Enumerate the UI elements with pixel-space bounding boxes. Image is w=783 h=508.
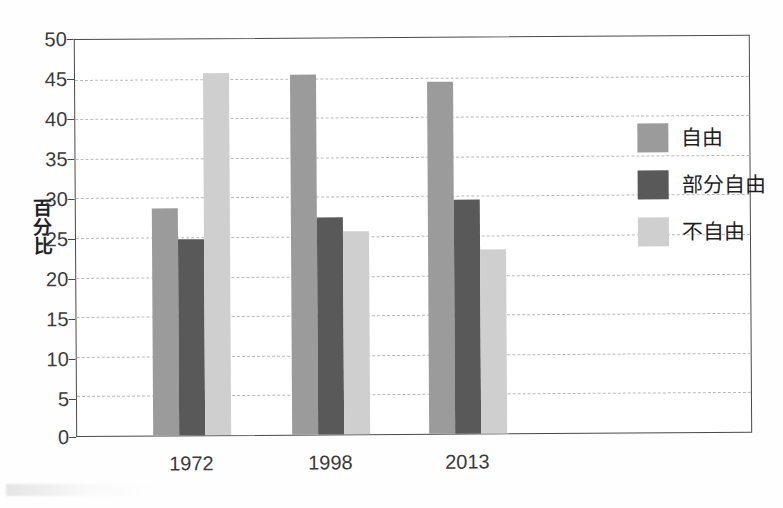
- bar-1972-not-free: [203, 73, 231, 435]
- legend-label-partly-free: 部分自由: [682, 173, 766, 197]
- y-tick-label-45: 45: [27, 69, 67, 89]
- y-tick-mark-10: [69, 359, 76, 360]
- bar-chart-figure: 百分比 50 45 40 35 30 25 20 15 10 5 0: [0, 0, 783, 508]
- legend-label-free: 自由: [681, 126, 723, 149]
- plot-area: 自由 部分自由 不自由: [74, 35, 752, 437]
- legend: 自由 部分自由 不自由: [637, 113, 783, 255]
- bar-2013-free: [427, 82, 455, 434]
- scanned-page: 百分比 50 45 40 35 30 25 20 15 10 5 0: [0, 0, 783, 508]
- y-tick-label-5: 5: [29, 389, 69, 409]
- bar-2013-not-free: [480, 250, 507, 434]
- legend-item-free: 自由: [637, 113, 783, 161]
- y-axis-ticks: 50 45 40 35 30 25 20 15 10 5 0: [0, 0, 782, 2]
- y-tick-mark-0: [69, 437, 76, 438]
- y-tick-mark-45: [67, 79, 74, 80]
- y-tick-label-0: 0: [29, 427, 69, 447]
- y-tick-label-40: 40: [27, 109, 67, 129]
- x-tick-label-2013: 2013: [407, 451, 527, 472]
- y-tick-mark-5: [69, 399, 76, 400]
- bar-1972-partly-free: [178, 240, 205, 436]
- y-tick-mark-15: [68, 319, 75, 320]
- y-tick-label-10: 10: [29, 349, 69, 369]
- x-tick-label-1998: 1998: [270, 452, 390, 473]
- bar-2013-partly-free: [454, 200, 481, 434]
- legend-swatch-not-free: [638, 217, 669, 246]
- legend-item-not-free: 不自由: [638, 207, 783, 255]
- y-tick-mark-50: [67, 39, 74, 40]
- y-tick-mark-20: [68, 279, 75, 280]
- y-tick-mark-35: [67, 159, 74, 160]
- legend-swatch-free: [637, 123, 668, 152]
- y-tick-label-30: 30: [28, 189, 68, 209]
- bar-1998-free: [290, 74, 318, 435]
- legend-label-not-free: 不自由: [682, 220, 745, 243]
- y-tick-mark-25: [68, 239, 75, 240]
- y-tick-label-35: 35: [27, 149, 67, 169]
- legend-swatch-partly-free: [638, 170, 669, 199]
- y-tick-mark-40: [67, 119, 74, 120]
- legend-item-partly-free: 部分自由: [638, 160, 783, 208]
- scan-artifact: [6, 484, 156, 496]
- bar-1998-not-free: [343, 231, 370, 434]
- x-tick-label-1972: 1972: [131, 453, 251, 474]
- bar-1998-partly-free: [317, 217, 344, 434]
- y-tick-label-20: 20: [28, 269, 68, 289]
- y-tick-label-15: 15: [28, 309, 68, 329]
- y-tick-label-50: 50: [27, 29, 67, 49]
- x-axis-ticks: 1972 1998 2013: [0, 0, 782, 2]
- bar-1972-free: [152, 208, 179, 435]
- y-tick-label-25: 25: [28, 229, 68, 249]
- y-tick-mark-30: [68, 199, 75, 200]
